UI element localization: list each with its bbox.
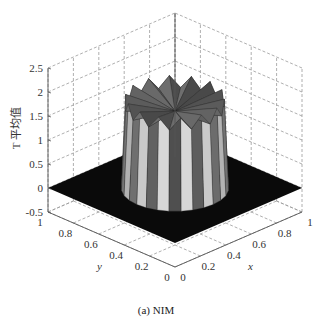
z-tick — [48, 212, 51, 213]
y-tick-label: 0.6 — [84, 238, 98, 250]
surface-side-facet — [157, 117, 169, 211]
x-axis-label: x — [247, 260, 253, 272]
x-tick-label: 0.2 — [202, 260, 216, 272]
y-tick-label: 0.4 — [109, 249, 123, 261]
z-tick-label: 1.5 — [29, 110, 43, 122]
z-tick-label: 0 — [38, 182, 44, 194]
x-tick-label: 0.6 — [252, 238, 266, 250]
z-tick-label: 1 — [38, 134, 44, 146]
wall-grid-line — [48, 37, 175, 92]
figure-caption: (a) NIM — [0, 304, 320, 316]
surface-side-facet — [191, 115, 203, 210]
y-tick-label: 1 — [37, 216, 43, 228]
wall-grid-line — [48, 13, 175, 68]
x-tick-label: 0 — [180, 271, 186, 283]
z-axis-label: T 平均值 — [10, 107, 22, 149]
x-tick-label: 0.8 — [278, 227, 292, 239]
z-tick-label: 0.5 — [29, 158, 43, 170]
y-axis-label: y — [96, 260, 102, 272]
wall-grid-line — [175, 13, 302, 68]
z-tick-label: 2.5 — [29, 62, 43, 74]
z-tick-label: 2 — [38, 86, 44, 98]
surface-side-facet — [181, 118, 193, 211]
x-tick-label: 0.4 — [227, 249, 241, 261]
x-tick-label: 1 — [307, 216, 313, 228]
y-tick-label: 0.2 — [135, 260, 149, 272]
y-tick-label: 0 — [164, 271, 170, 283]
y-tick-label: 0.8 — [59, 227, 73, 239]
surface-plot: -0.500.511.522.500.20.40.60.8100.20.40.6… — [0, 0, 320, 323]
